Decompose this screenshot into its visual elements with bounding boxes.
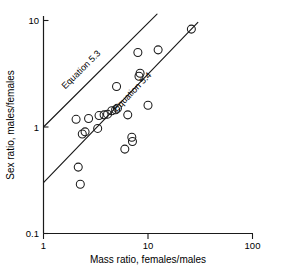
x-tick-label-10: 10 <box>143 240 154 251</box>
equation-labels-group: Equation 5.3Equation 5.4 <box>60 48 154 113</box>
data-point <box>124 111 132 119</box>
y-tick-label-10: 10 <box>28 15 39 26</box>
y-axis-title: Sex ratio, males/females <box>5 70 16 180</box>
data-point <box>72 115 80 123</box>
x-tick-label-1: 1 <box>41 240 46 251</box>
data-point <box>134 49 142 57</box>
chart-canvas: 10 1 0.1 1 10 100 Mass ratio, females/ma… <box>0 0 282 271</box>
y-tick-label-0-1: 0.1 <box>26 228 39 239</box>
data-point <box>76 180 84 188</box>
fit-line-1 <box>44 14 158 127</box>
scatter-chart-figure: 10 1 0.1 1 10 100 Mass ratio, females/ma… <box>0 0 282 271</box>
data-points-group <box>72 25 195 188</box>
data-point <box>74 163 82 171</box>
data-point <box>121 145 129 153</box>
data-point <box>85 115 93 123</box>
x-axis-title: Mass ratio, females/males <box>90 254 206 265</box>
y-tick-label-1: 1 <box>34 122 39 133</box>
equation-label-1: Equation 5.3 <box>60 48 103 91</box>
data-point <box>113 83 121 91</box>
equation-label-2: Equation 5.4 <box>111 70 153 113</box>
data-point <box>144 101 152 109</box>
x-tick-label-100: 100 <box>245 240 261 251</box>
data-point <box>154 46 162 54</box>
